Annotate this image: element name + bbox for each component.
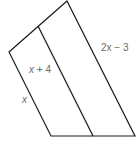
geometry-diagram: 2x − 3 x + 4 x: [0, 0, 136, 147]
outer-quadrilateral: [9, 1, 135, 136]
divider-segment: [38, 26, 93, 136]
label-left-side-var: x: [21, 94, 28, 105]
label-left-side: x: [21, 94, 28, 105]
label-middle-strip: x + 4: [28, 64, 51, 75]
label-right-side-rest: − 3: [112, 42, 129, 53]
label-middle-strip-rest: + 4: [34, 64, 51, 75]
label-right-side-var: 2x: [101, 42, 112, 53]
label-right-side: 2x − 3: [101, 42, 129, 53]
